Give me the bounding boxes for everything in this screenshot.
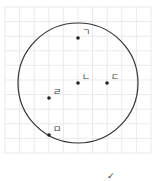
points: ㄱㄴㄷㄹㅁ xyxy=(47,27,119,137)
grid xyxy=(5,7,151,153)
point-dot xyxy=(105,81,109,85)
point-label: ㄴ xyxy=(82,72,90,82)
point-dot xyxy=(47,133,51,137)
circle-diagram: ㄱㄴㄷㄹㅁ ✓ xyxy=(0,0,152,181)
point-dot xyxy=(76,81,80,85)
point-label: ㄱ xyxy=(82,27,90,37)
point-label: ㅁ xyxy=(53,124,61,134)
check-mark: ✓ xyxy=(107,171,115,181)
point-dot xyxy=(76,36,80,40)
point-label: ㄹ xyxy=(53,87,61,97)
point-label: ㄷ xyxy=(111,72,119,82)
point-dot xyxy=(47,96,51,100)
